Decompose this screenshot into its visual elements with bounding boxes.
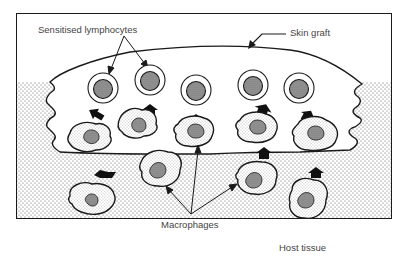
macrophage <box>236 161 277 194</box>
macrophage <box>118 108 157 138</box>
label-skin-graft: Skin graft <box>288 27 332 38</box>
lymphocyte <box>238 70 268 100</box>
macrophage <box>236 112 277 143</box>
macrophage <box>68 122 111 151</box>
macrophage <box>140 150 182 186</box>
macrophage <box>174 116 214 147</box>
lymphocyte <box>284 73 314 103</box>
macrophage <box>69 183 115 215</box>
lymphocyte <box>181 75 211 105</box>
label-sensitised-lymphocytes: Sensitised lymphocytes <box>36 24 139 35</box>
label-host-tissue: Host tissue <box>277 242 328 253</box>
lymphocyte <box>135 65 165 95</box>
macrophage <box>289 178 327 218</box>
skin-graft-pointer <box>252 34 286 44</box>
lymphocyte <box>88 73 118 103</box>
label-macrophages: Macrophages <box>159 219 221 230</box>
